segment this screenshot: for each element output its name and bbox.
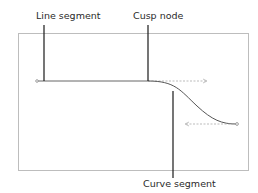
curve-segment-path xyxy=(148,81,236,124)
path-diagram xyxy=(0,0,258,193)
line-segment-label: Line segment xyxy=(36,10,101,21)
start-node xyxy=(36,80,39,83)
cusp-node-label: Cusp node xyxy=(133,10,183,21)
end-node xyxy=(236,123,239,126)
curve-segment-label: Curve segment xyxy=(143,178,216,189)
diagram-frame xyxy=(19,34,249,171)
